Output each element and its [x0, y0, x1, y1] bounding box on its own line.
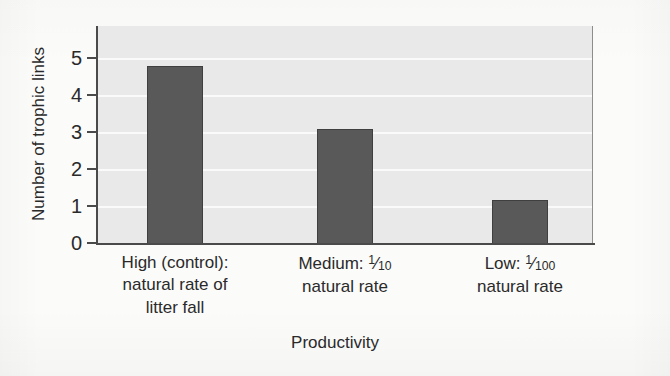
category-label-line: natural rate: [420, 276, 620, 298]
bar-medium: [317, 129, 373, 244]
category-label-line: litter fall: [75, 297, 275, 319]
x-axis-line: [96, 243, 595, 245]
fraction-denominator: 100: [535, 259, 555, 273]
bar-low: [492, 200, 548, 244]
y-tick-0: [87, 242, 96, 244]
category-label-low: Low: 1⁄100natural rate: [420, 252, 620, 298]
fraction: 1⁄100: [525, 252, 555, 276]
fraction-denominator: 10: [378, 259, 392, 273]
y-tick-1: [87, 205, 96, 207]
y-axis-line: [96, 26, 98, 245]
gridline-5: [98, 58, 593, 60]
y-axis-title: Number of trophic links: [29, 19, 49, 249]
y-tick-5: [87, 57, 96, 59]
plot-right-edge: [592, 26, 593, 244]
bar-chart-figure: 012345 Number of trophic links Productiv…: [0, 0, 670, 376]
y-tick-3: [87, 131, 96, 133]
category-label-line: natural rate: [245, 276, 445, 298]
plot-area: [98, 26, 593, 244]
bar-high: [147, 66, 203, 244]
category-labels-group: High (control):natural rate oflitter fal…: [98, 252, 593, 324]
category-label-line: Low: 1⁄100: [420, 252, 620, 276]
fraction: 1⁄10: [368, 252, 391, 276]
x-axis-title: Productivity: [0, 333, 670, 353]
y-tick-4: [87, 94, 96, 96]
category-label-line: Medium: 1⁄10: [245, 252, 445, 276]
y-tick-2: [87, 168, 96, 170]
category-label-medium: Medium: 1⁄10natural rate: [245, 252, 445, 298]
